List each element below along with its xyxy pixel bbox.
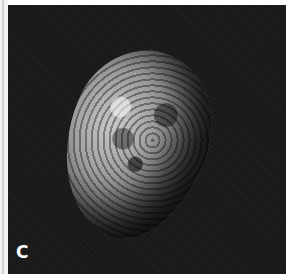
left-frame-divider <box>2 0 4 274</box>
panel-label: C <box>16 244 28 261</box>
image-panel <box>8 5 286 274</box>
